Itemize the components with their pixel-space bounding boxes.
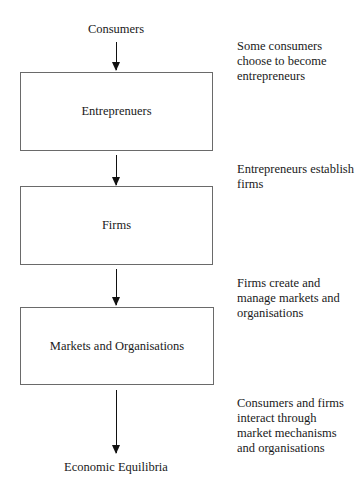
box-markets-organisations-label: Markets and Organisations (50, 339, 184, 354)
box-firms-label: Firms (102, 218, 131, 233)
start-node-consumers: Consumers (66, 22, 166, 37)
edge-note-1: Some consumers choose to become entrepre… (237, 39, 357, 84)
box-entrepreneurs-label: Entreprenuers (81, 104, 151, 119)
box-markets-organisations: Markets and Organisations (20, 307, 214, 385)
edge-note-4: Consumers and firms interact through mar… (237, 396, 349, 456)
edge-note-3: Firms create and manage markets and orga… (237, 276, 357, 321)
arrow-firms-to-markets (116, 269, 117, 305)
box-firms: Firms (20, 186, 213, 265)
edge-note-2: Entrepreneurs establish firms (237, 162, 357, 192)
arrow-markets-to-equilibria (116, 390, 117, 453)
arrow-consumers-to-entrepreneurs (116, 42, 117, 70)
box-entrepreneurs: Entreprenuers (20, 72, 213, 151)
end-node-economic-equilibria: Economic Equilibria (46, 460, 186, 475)
arrow-entrepreneurs-to-firms (116, 155, 117, 185)
